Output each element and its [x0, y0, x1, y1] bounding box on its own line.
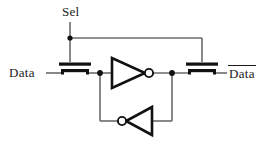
left-transistor-channel-bar — [61, 69, 89, 72]
left-transistor-drain-leg — [86, 69, 89, 75]
inverter-feedback-triangle — [126, 107, 152, 135]
left-transistor-gate-bar — [59, 63, 91, 66]
label-data-out-text: Data — [229, 66, 255, 80]
right-transistor-channel-bar — [188, 69, 216, 72]
pass-transistor-right — [186, 63, 218, 75]
pass-transistor-left — [59, 63, 91, 75]
right-transistor-gate-bar — [186, 63, 218, 66]
right-transistor-drain-leg — [213, 69, 216, 75]
inverter-forward-triangle — [112, 58, 145, 88]
left-transistor-source-leg — [61, 69, 64, 75]
circuit-diagram-canvas: Sel Data Data — [0, 0, 272, 149]
label-data-out-complement: Data — [229, 66, 255, 80]
junction-dot-sel — [67, 35, 72, 40]
inverter-forward-bubble-icon — [145, 69, 153, 77]
junction-dot-left-node — [97, 70, 103, 76]
label-sel: Sel — [62, 5, 80, 18]
inverter-feedback — [118, 107, 152, 135]
right-transistor-source-leg — [188, 69, 191, 75]
inverter-feedback-bubble-icon — [118, 117, 126, 125]
junction-dot-right-node — [169, 70, 175, 76]
label-data-in: Data — [9, 66, 35, 79]
inverter-forward — [112, 58, 153, 88]
